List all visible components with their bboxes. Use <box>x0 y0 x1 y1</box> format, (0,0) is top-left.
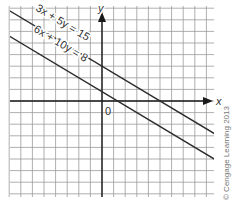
x-axis-label: x <box>215 95 222 107</box>
coordinate-graph: 3x + 5y = 15 6x + 10y = 8 x y 0 © Cengag… <box>0 0 233 208</box>
origin-label: 0 <box>105 105 111 117</box>
x-axis-arrow-icon <box>203 97 213 105</box>
copyright-text: © Cengage Learning 2013 <box>222 105 231 200</box>
